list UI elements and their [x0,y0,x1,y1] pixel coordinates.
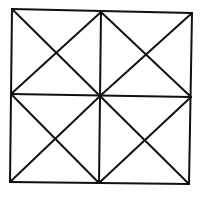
diagram-segments [10,9,192,184]
square-grid-diagram [0,0,201,197]
line-tl-diag-b [11,12,101,94]
